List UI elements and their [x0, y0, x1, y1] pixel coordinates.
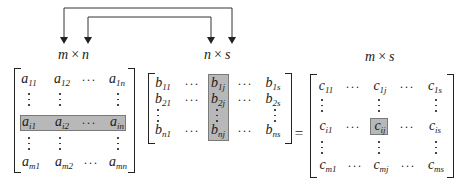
hdots: ···	[185, 125, 200, 137]
matrix-a-cell: a11	[21, 72, 36, 88]
matrix-b-right-bracket	[285, 73, 292, 144]
matrix-a-cell: ai1	[22, 115, 36, 131]
matrix-c-right-bracket	[447, 74, 454, 178]
hdots: ···	[400, 81, 415, 93]
matrix-c-left-bracket	[310, 74, 317, 178]
matrix-c-cell: cmj	[373, 158, 388, 174]
matrix-b-left-bracket	[148, 73, 155, 144]
matrix-c-cell: cm1	[319, 158, 336, 174]
vdots	[59, 137, 61, 154]
matrix-a-cell: amn	[109, 155, 127, 171]
vdots	[378, 99, 380, 116]
vdots	[321, 141, 323, 158]
vdots	[117, 137, 119, 154]
hdots: ···	[238, 125, 253, 137]
vdots	[28, 137, 30, 154]
hdots: ···	[401, 160, 416, 172]
hdots: ···	[348, 160, 363, 172]
matrix-b-cell: b21	[155, 92, 171, 108]
hdots: ···	[82, 74, 97, 86]
matrix-b-cell: b1s	[265, 76, 280, 92]
vdots	[378, 141, 380, 158]
matrix-b-cell: bn1	[155, 123, 171, 139]
matrix-b-cell: b2j	[211, 92, 225, 108]
vdots	[435, 99, 437, 116]
matrix-b-cell: b2s	[265, 92, 280, 108]
matrix-b-cell: bns	[265, 123, 280, 139]
vdots	[435, 141, 437, 158]
matrix-a-cell: ai2	[55, 115, 69, 131]
matrix-a-cell: ain	[110, 115, 124, 131]
hdots: ···	[238, 94, 253, 106]
vdots	[117, 93, 119, 110]
matrix-c-cell: cij	[374, 119, 385, 135]
vdots	[321, 99, 323, 116]
matrix-a-right-bracket	[128, 68, 135, 173]
hdots: ···	[185, 78, 200, 90]
matrix-a-cell: a1n	[109, 72, 125, 88]
matrix-b-cell: b11	[155, 76, 170, 92]
matrix-c-cell: c1s	[428, 79, 442, 95]
outer-arrow-m-to-s	[64, 8, 232, 38]
matrix-c-cell: cms	[428, 158, 444, 174]
matrix-b-cell: bnj	[211, 123, 225, 139]
hdots: ···	[346, 81, 361, 93]
matrix-a-cell: am2	[55, 155, 73, 171]
matrix-c-cell: c11	[319, 79, 334, 95]
matrix-b-cell: b1j	[211, 76, 225, 92]
dim-label-b: n×s	[204, 47, 230, 63]
matrix-c-cell: ci1	[319, 119, 332, 135]
hdots: ···	[84, 157, 99, 169]
hdots: ···	[82, 117, 97, 129]
matrix-a-cell: a12	[54, 72, 70, 88]
hdots: ···	[238, 78, 253, 90]
inner-arrow-n-to-n	[88, 17, 211, 38]
hdots: ···	[346, 121, 361, 133]
matrix-a-cell: am1	[22, 155, 40, 171]
hdots: ···	[400, 121, 415, 133]
equals-sign: =	[295, 126, 303, 141]
matrix-c-cell: cis	[429, 119, 441, 135]
matrix-c-cell: c1j	[373, 79, 386, 95]
vdots	[28, 93, 30, 110]
hdots: ···	[185, 94, 200, 106]
dim-label-c: m×s	[365, 49, 394, 65]
dim-label-a: m×n	[58, 47, 89, 63]
vdots	[59, 93, 61, 110]
